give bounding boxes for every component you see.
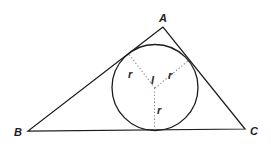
geometry-figure: A B C I r r r (0, 0, 271, 145)
vertex-c-label: C (250, 125, 259, 137)
vertex-a-label: A (158, 12, 167, 24)
incenter-label: I (151, 74, 155, 86)
incircle-diagram: A B C I r r r (0, 0, 271, 145)
vertex-b-label: B (14, 126, 22, 138)
radius-right-label: r (168, 69, 173, 81)
radius-bottom-label: r (157, 104, 162, 116)
triangle-abc (28, 27, 245, 131)
radius-left-label: r (128, 68, 133, 80)
